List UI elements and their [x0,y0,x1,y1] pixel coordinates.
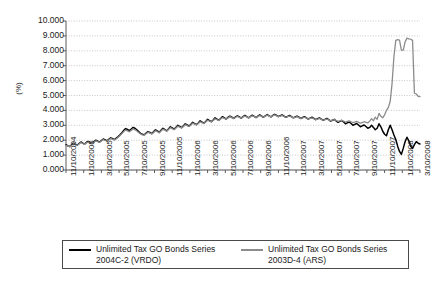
x-tick-label: 7/10/2005 [140,140,149,176]
legend-label-ars-line2: 2003D-4 (ARS) [268,255,326,265]
legend-entry-ars: Unlimited Tax GO Bonds Series 2003D-4 (A… [241,244,398,265]
x-tick-label: 3/10/2008 [423,140,432,176]
chart-legend: Unlimited Tax GO Bonds Series 2004C-2 (V… [62,240,409,269]
x-tick-label: 3/10/2006 [211,140,220,176]
legend-swatch-icon-ars [241,249,263,251]
legend-label-ars-line1: Unlimited Tax GO Bonds Series [268,244,387,254]
x-tick-label: 11/10/2004 [69,137,78,176]
legend-label-ars: Unlimited Tax GO Bonds Series 2003D-4 (A… [268,244,398,265]
x-tick-label: 7/10/2007 [352,140,361,176]
x-tick-label: 5/10/2005 [122,140,131,176]
x-tick-label: 11/10/2006 [282,137,291,176]
x-tick-label: 1/10/2006 [193,140,202,176]
legend-label-vrdo: Unlimited Tax GO Bonds Series 2004C-2 (V… [96,244,226,265]
x-tick-label: 9/10/2006 [264,140,273,176]
x-tick-label: 3/10/2005 [105,140,114,176]
x-tick-label: 7/10/2006 [246,140,255,176]
x-tick-label: 1/10/2008 [406,140,415,176]
x-tick-label: 5/10/2007 [335,140,344,176]
legend-label-vrdo-line2: 2004C-2 (VRDO) [96,255,161,265]
x-tick-label: 1/10/2007 [299,140,308,176]
x-tick-label: 3/10/2007 [317,140,326,176]
x-tick-label: 11/10/2007 [388,137,397,176]
x-tick-label: 5/10/2006 [229,140,238,176]
x-tick-label: 1/10/2005 [87,140,96,176]
legend-entry-vrdo: Unlimited Tax GO Bonds Series 2004C-2 (V… [69,244,226,265]
x-tick-label: 9/10/2005 [158,140,167,176]
legend-label-vrdo-line1: Unlimited Tax GO Bonds Series [96,244,215,254]
x-tick-label: 11/10/2005 [175,137,184,176]
legend-swatch-icon-vrdo [69,249,91,251]
x-tick-label: 9/10/2007 [370,140,379,176]
